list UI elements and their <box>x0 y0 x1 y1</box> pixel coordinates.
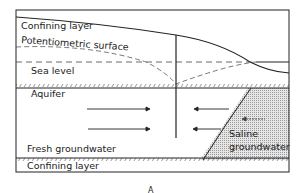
label-saline-groundwater: groundwater <box>229 141 290 152</box>
flow-arrows-fresh <box>87 107 229 131</box>
label-confining-top: Confining layer <box>21 20 93 31</box>
label-aquifer: Aquifer <box>31 88 65 99</box>
label-potentiometric: Potentiometric surface <box>21 34 129 52</box>
label-sea-level: Sea level <box>31 65 74 76</box>
label-confining-bottom: Confining layer <box>27 160 99 171</box>
panel-label: A <box>148 186 154 193</box>
label-fresh-groundwater: Fresh groundwater <box>27 143 116 154</box>
groundwater-diagram: Confining layer Potentiometric surface S… <box>0 0 303 193</box>
upper-confining-hatch <box>16 84 289 87</box>
label-saline: Saline <box>229 128 258 139</box>
